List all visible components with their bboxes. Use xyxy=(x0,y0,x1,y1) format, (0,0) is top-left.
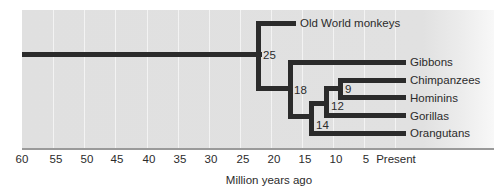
node-25-stem xyxy=(256,21,261,91)
phylogenetic-diagram: 25 18 14 12 9 Old World monkeys Gibbons … xyxy=(0,0,494,195)
branch-25-to-18 xyxy=(256,86,292,91)
axis-tick: 25 xyxy=(237,153,250,166)
axis-title: Million years ago xyxy=(0,174,494,186)
branch-gibbons xyxy=(288,60,406,65)
gridline xyxy=(271,10,272,148)
branch-gorillas xyxy=(324,113,406,118)
axis-tick: 50 xyxy=(81,153,94,166)
node-label-12: 12 xyxy=(331,100,344,113)
node-label-18: 18 xyxy=(294,84,307,97)
gridline xyxy=(302,10,303,148)
root-branch xyxy=(22,52,262,57)
axis-tick-present: Present xyxy=(376,153,416,166)
axis-tick: 35 xyxy=(174,153,187,166)
axis-tick: 45 xyxy=(111,153,124,166)
axis-tick: 15 xyxy=(299,153,312,166)
branch-old-world-monkeys xyxy=(256,21,296,26)
node-18-stem xyxy=(288,60,293,119)
axis-tick: 60 xyxy=(16,153,29,166)
axis-tick: 30 xyxy=(205,153,218,166)
gridline xyxy=(209,10,210,148)
taxon-hominins: Hominins xyxy=(410,92,458,105)
gridline xyxy=(53,10,54,148)
axis-tick: 10 xyxy=(330,153,343,166)
taxon-orangutans: Orangutans xyxy=(410,127,470,140)
gridline xyxy=(178,10,179,148)
taxon-gibbons: Gibbons xyxy=(410,56,453,69)
node-label-9: 9 xyxy=(345,83,351,96)
axis-tick: 55 xyxy=(50,153,63,166)
axis-tick: 5 xyxy=(363,153,369,166)
gridline xyxy=(115,10,116,148)
taxon-chimpanzees: Chimpanzees xyxy=(410,74,480,87)
gridline xyxy=(84,10,85,148)
node-label-14: 14 xyxy=(316,119,329,132)
gridline xyxy=(333,10,334,148)
axis-tick: 20 xyxy=(268,153,281,166)
node-label-25: 25 xyxy=(263,49,276,62)
gridline xyxy=(147,10,148,148)
taxon-old-world-monkeys: Old World monkeys xyxy=(300,17,400,30)
taxon-gorillas: Gorillas xyxy=(410,110,449,123)
gridline xyxy=(240,10,241,148)
axis-tick: 40 xyxy=(143,153,156,166)
